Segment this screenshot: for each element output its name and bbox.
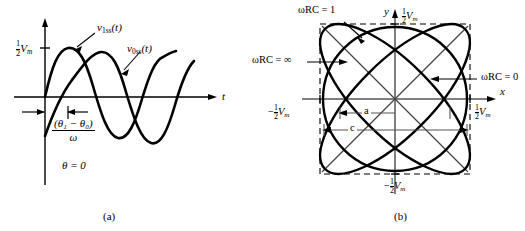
panel-a-x-axis-label: t [222, 91, 225, 102]
y-axis-negative-tick-label: −12Vm [384, 178, 405, 195]
label-omega-rc-one: ωRC = 1 [298, 5, 335, 16]
leader-arrowhead-omega-rc-one [357, 37, 365, 44]
v1ss-argument: (t) [111, 21, 121, 33]
leader-arrowhead-v0ss [121, 69, 129, 76]
figure-container: 12Vm t v1ss(t) v0ss(t) (θ₁ − θ₀)ω θ = 0 … [0, 0, 525, 231]
panel-a-y-axis-label: 12Vm [16, 40, 32, 58]
panel-a: 12Vm t v1ss(t) v0ss(t) (θ₁ − θ₀)ω θ = 0 … [0, 0, 262, 231]
panel-b-y-axis-label: y [384, 6, 389, 17]
leader-line-v1ss [77, 33, 95, 47]
panel-a-x-axis-arrowhead [208, 94, 217, 100]
leader-arrowhead-omega-rc-infinity [339, 59, 348, 65]
x-pos-sub: m [485, 111, 490, 119]
dimension-label-c: c [348, 123, 357, 134]
leader-arrowhead-omega-rc-zero [430, 76, 439, 82]
panel-a-caption: (a) [103, 210, 115, 222]
curve-label-v0ss: v0ss(t) [127, 43, 152, 56]
theta-condition-label: θ = 0 [62, 160, 86, 171]
panel-b: ωRC = 1 ωRC = ∞ ωRC = 0 y x 12Vm −12Vm −… [262, 0, 525, 231]
phase-span-left-arrowhead [37, 109, 45, 115]
panel-b-x-axis-label: x [500, 86, 505, 97]
panel-b-caption: (b) [394, 210, 407, 222]
label-omega-rc-zero: ωRC = 0 [481, 72, 518, 83]
x-axis-positive-tick-label: 12Vm [475, 104, 491, 121]
label-omega-rc-infinity: ωRC = ∞ [252, 55, 292, 66]
y-neg-sub: m [400, 185, 405, 193]
panel-a-graphic [0, 0, 262, 231]
v0ss-argument: (t) [141, 42, 151, 54]
curve-label-v1ss: v1ss(t) [97, 22, 122, 35]
x-axis-negative-tick-label: −12Vm [268, 104, 289, 121]
phase-denominator: ω [52, 131, 95, 143]
panel-b-y-axis-arrowhead [392, 9, 398, 18]
voltage-subscript: m [27, 47, 32, 56]
phase-fraction: (θ₁ − θ₀)ω [52, 118, 95, 143]
voltage-symbol: V [20, 42, 27, 54]
dimension-label-a: a [362, 106, 371, 117]
dimension-arrowhead-a-left [338, 110, 347, 116]
panel-a-y-axis-arrowhead [42, 18, 48, 27]
y-axis-positive-tick-label: 12Vm [402, 8, 418, 25]
phase-shift-annotation: (θ₁ − θ₀)ω [52, 118, 95, 143]
y-pos-sub: m [412, 15, 417, 23]
curve-v1ss-tail [163, 51, 176, 57]
phase-numerator: (θ₁ − θ₀) [52, 118, 95, 131]
x-neg-sub: m [284, 111, 289, 119]
panel-b-x-axis-arrowhead [487, 96, 496, 102]
